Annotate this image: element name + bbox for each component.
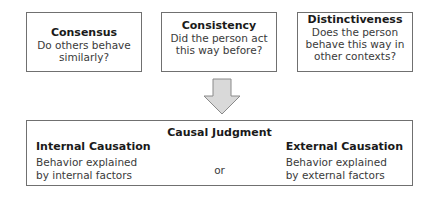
distinctiveness-box: Distinctiveness Does the person behave t… — [297, 12, 413, 72]
consistency-title: Consistency — [162, 20, 276, 32]
consensus-box: Consensus Do others behave similarly? — [26, 12, 142, 72]
causal-judgment-box: Causal Judgment Internal Causation Behav… — [26, 120, 413, 186]
external-causation: External Causation Behavior explained by… — [286, 140, 403, 182]
causal-judgment-title: Causal Judgment — [27, 126, 412, 139]
distinctiveness-question: Does the person behave this way in other… — [298, 26, 412, 62]
external-causation-title: External Causation — [286, 140, 403, 153]
external-causation-description: Behavior explained by external factors — [286, 156, 396, 182]
consensus-title: Consensus — [27, 27, 141, 39]
consistency-question: Did the person act this way before? — [162, 32, 276, 56]
internal-causation-title: Internal Causation — [36, 140, 151, 153]
down-arrow-icon — [200, 78, 244, 116]
consensus-question: Do others behave similarly? — [27, 39, 141, 63]
consistency-box: Consistency Did the person act this way … — [161, 12, 277, 72]
distinctiveness-title: Distinctiveness — [298, 14, 412, 26]
